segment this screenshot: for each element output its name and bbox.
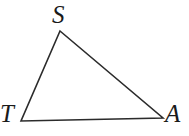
- vertex-label-S: S: [52, 2, 65, 27]
- triangle-STA: [21, 31, 163, 121]
- triangle-svg: [0, 0, 189, 136]
- vertex-label-A: A: [165, 101, 180, 126]
- geometry-figure: S T A: [0, 0, 189, 136]
- vertex-label-T: T: [0, 101, 14, 126]
